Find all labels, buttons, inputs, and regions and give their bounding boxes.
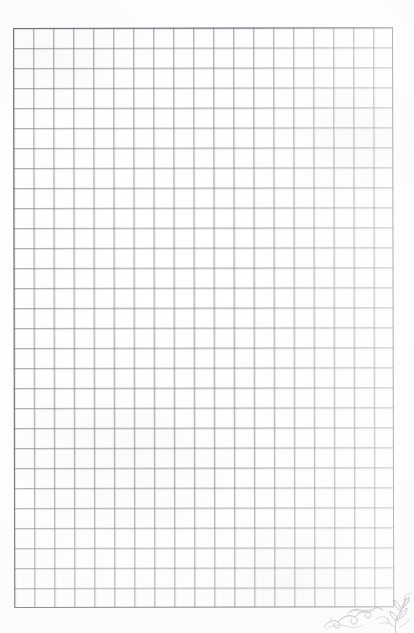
grid-outer-border (13, 27, 394, 608)
graph-grid (13, 27, 394, 608)
left-margin (0, 0, 13, 633)
right-margin (393, 0, 414, 633)
top-margin (0, 0, 414, 28)
bottom-margin (0, 608, 414, 633)
scanned-page (0, 0, 414, 633)
